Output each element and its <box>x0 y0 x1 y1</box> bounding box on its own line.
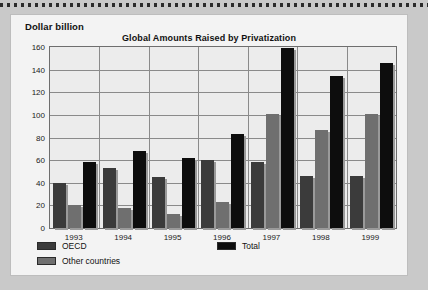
bar <box>266 114 279 228</box>
bar <box>103 168 116 228</box>
bar-face <box>281 48 294 228</box>
bar <box>133 151 146 228</box>
bar <box>68 205 81 228</box>
bar-group <box>248 47 297 228</box>
bar-face <box>68 205 81 228</box>
bar-face <box>53 183 66 228</box>
y-tick-label: 140 <box>11 65 45 74</box>
bar-face <box>231 134 244 228</box>
bar-groups <box>50 47 396 228</box>
bar-face <box>315 130 328 228</box>
bar-face <box>380 63 393 228</box>
chart-title: Global Amounts Raised by Privatization <box>11 33 407 43</box>
legend-label: OECD <box>62 241 87 251</box>
legend-item: Other countries <box>37 256 120 266</box>
bar <box>216 202 229 228</box>
bar-face <box>133 151 146 228</box>
legend-swatch <box>37 242 56 250</box>
bar <box>231 134 244 228</box>
bar <box>182 158 195 228</box>
legend-item: OECD <box>37 241 87 251</box>
bar-face <box>118 208 131 228</box>
bar <box>380 63 393 228</box>
bar-face <box>152 177 165 228</box>
y-tick-label: 100 <box>11 110 45 119</box>
bar-group <box>297 47 346 228</box>
bar-face <box>167 214 180 228</box>
y-tick-label: 120 <box>11 88 45 97</box>
bar <box>167 214 180 228</box>
bar <box>118 208 131 228</box>
figure-card: Dollar billion Global Amounts Raised by … <box>10 14 408 276</box>
bar <box>201 160 214 228</box>
chart-legend: OECDOther countriesTotal <box>37 241 377 273</box>
legend-swatch <box>37 257 56 265</box>
bar-group <box>50 47 99 228</box>
y-tick-label: 0 <box>11 224 45 233</box>
top-dotted-rule <box>0 3 428 7</box>
bar <box>53 183 66 228</box>
y-tick-label: 160 <box>11 43 45 52</box>
bar-face <box>300 176 313 228</box>
legend-label: Total <box>242 241 260 251</box>
bar-face <box>103 168 116 228</box>
bar <box>350 176 363 228</box>
bar <box>281 48 294 228</box>
y-tick-label: 40 <box>11 178 45 187</box>
bar-group <box>99 47 148 228</box>
bar <box>300 176 313 228</box>
bar <box>315 130 328 228</box>
bar <box>83 162 96 228</box>
bar <box>152 177 165 228</box>
bar-face <box>216 202 229 228</box>
bar-face <box>83 162 96 228</box>
bar-group <box>149 47 198 228</box>
y-axis-tick-labels: 020406080100120140160 <box>11 46 45 229</box>
y-tick-label: 20 <box>11 201 45 210</box>
legend-item: Total <box>217 241 260 251</box>
bar-face <box>365 114 378 228</box>
axis-unit-label: Dollar billion <box>25 21 84 32</box>
bar-face <box>251 162 264 228</box>
y-tick-label: 60 <box>11 156 45 165</box>
bar <box>330 76 343 228</box>
bar-face <box>266 114 279 228</box>
bar-face <box>330 76 343 228</box>
plot-area <box>49 46 397 229</box>
bar-group <box>347 47 396 228</box>
legend-label: Other countries <box>62 256 120 266</box>
bar-group <box>198 47 247 228</box>
bar-face <box>182 158 195 228</box>
bar-face <box>201 160 214 228</box>
bar-face <box>350 176 363 228</box>
y-tick-label: 80 <box>11 133 45 142</box>
bar <box>251 162 264 228</box>
bar <box>365 114 378 228</box>
legend-swatch <box>217 242 236 250</box>
